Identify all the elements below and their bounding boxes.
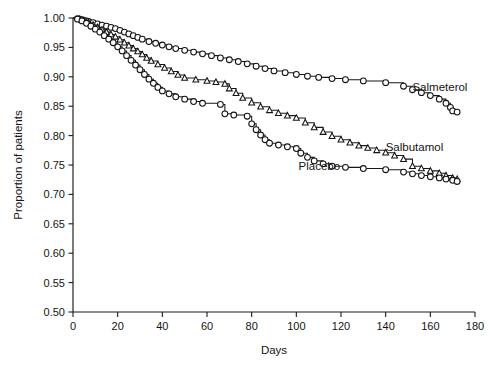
circle-marker-icon	[285, 144, 291, 150]
triangle-marker-icon	[182, 75, 188, 81]
chart-container: 0.500.550.600.650.700.750.800.850.900.95…	[0, 0, 493, 366]
circle-marker-icon	[166, 44, 172, 50]
triangle-marker-icon	[347, 139, 353, 145]
series-step-line	[73, 18, 457, 179]
circle-marker-icon	[119, 48, 125, 54]
circle-marker-icon	[427, 93, 433, 99]
triangle-marker-icon	[249, 99, 255, 105]
circle-marker-icon	[305, 73, 311, 79]
circle-marker-icon	[383, 80, 389, 86]
triangle-marker-icon	[213, 79, 219, 85]
circle-marker-icon	[173, 94, 179, 100]
circle-marker-icon	[133, 62, 139, 68]
triangle-marker-icon	[233, 90, 239, 96]
circle-marker-icon	[218, 102, 224, 108]
series-step-line	[73, 18, 457, 181]
x-tick-label: 140	[376, 320, 394, 332]
circle-marker-icon	[436, 175, 442, 181]
circle-marker-icon	[253, 63, 259, 69]
triangle-marker-icon	[302, 119, 308, 125]
circle-marker-icon	[298, 150, 304, 156]
circle-marker-icon	[410, 171, 416, 177]
kaplan-meier-plot: 0.500.550.600.650.700.750.800.850.900.95…	[0, 0, 493, 366]
circle-marker-icon	[137, 67, 143, 73]
y-tick-label: 0.65	[44, 218, 65, 230]
series-layer	[73, 16, 460, 185]
circle-marker-icon	[262, 66, 268, 72]
triangle-marker-icon	[338, 137, 344, 143]
series-label-salmeterol: Salmeterol	[412, 81, 467, 93]
circle-marker-icon	[267, 140, 273, 146]
circle-marker-icon	[454, 179, 460, 185]
x-tick-label: 60	[201, 320, 213, 332]
triangle-marker-icon	[204, 78, 210, 84]
triangle-marker-icon	[267, 107, 273, 113]
y-tick-label: 0.75	[44, 159, 65, 171]
circle-marker-icon	[253, 127, 259, 133]
y-tick-label: 0.90	[44, 71, 65, 83]
triangle-marker-icon	[222, 81, 228, 87]
y-tick-label: 0.95	[44, 41, 65, 53]
circle-marker-icon	[226, 57, 232, 63]
y-tick-label: 0.70	[44, 188, 65, 200]
series-label-salbutamol: Salbutamol	[386, 141, 444, 153]
circle-marker-icon	[360, 166, 366, 172]
circle-marker-icon	[142, 72, 148, 78]
circle-marker-icon	[401, 169, 407, 175]
triangle-marker-icon	[410, 163, 416, 169]
circle-marker-icon	[200, 51, 206, 57]
circle-marker-icon	[316, 74, 322, 80]
circle-marker-icon	[258, 132, 264, 138]
circle-marker-icon	[276, 142, 282, 148]
x-tick-label: 20	[112, 320, 124, 332]
series-salmeterol	[73, 16, 460, 115]
circle-marker-icon	[401, 83, 407, 89]
circle-marker-icon	[419, 173, 425, 179]
x-tick-label: 100	[287, 320, 305, 332]
y-tick-label: 0.80	[44, 130, 65, 142]
triangle-marker-icon	[320, 129, 326, 135]
triangle-marker-icon	[168, 68, 174, 74]
y-tick-label: 0.55	[44, 277, 65, 289]
triangle-marker-icon	[329, 133, 335, 139]
x-axis-title: Days	[261, 344, 287, 356]
triangle-marker-icon	[356, 142, 362, 148]
series-labels-layer: SalmeterolSalbutamolPlacebo	[299, 81, 468, 172]
circle-marker-icon	[209, 53, 215, 59]
x-tick-label: 40	[156, 320, 168, 332]
circle-marker-icon	[153, 40, 159, 46]
y-axis-title: Proportion of patients	[12, 110, 24, 220]
circle-marker-icon	[249, 121, 255, 127]
circle-marker-icon	[244, 61, 250, 67]
circle-marker-icon	[200, 100, 206, 106]
triangle-marker-icon	[162, 65, 168, 71]
circle-marker-icon	[191, 99, 197, 105]
circle-marker-icon	[454, 109, 460, 115]
circle-marker-icon	[173, 46, 179, 52]
circle-marker-icon	[124, 53, 130, 59]
triangle-marker-icon	[155, 61, 161, 67]
triangle-marker-icon	[276, 110, 282, 116]
circle-marker-icon	[166, 91, 172, 97]
circle-marker-icon	[293, 146, 299, 152]
circle-marker-icon	[282, 70, 288, 76]
x-tick-label: 160	[421, 320, 439, 332]
y-tick-label: 1.00	[44, 12, 65, 24]
circle-marker-icon	[128, 57, 134, 63]
circle-marker-icon	[146, 39, 152, 45]
series-salbutamol	[73, 16, 460, 181]
circle-marker-icon	[222, 111, 228, 117]
circle-marker-icon	[231, 112, 237, 118]
y-tick-label: 0.85	[44, 100, 65, 112]
circle-marker-icon	[182, 47, 188, 53]
x-tick-label: 0	[70, 320, 76, 332]
circle-marker-icon	[443, 176, 449, 182]
series-label-placebo: Placebo	[299, 160, 341, 172]
series-markers	[77, 16, 460, 181]
y-tick-label: 0.50	[44, 306, 65, 318]
circle-marker-icon	[343, 77, 349, 83]
triangle-marker-icon	[193, 77, 199, 83]
circle-marker-icon	[244, 113, 250, 119]
circle-marker-icon	[191, 49, 197, 55]
circle-marker-icon	[218, 55, 224, 61]
